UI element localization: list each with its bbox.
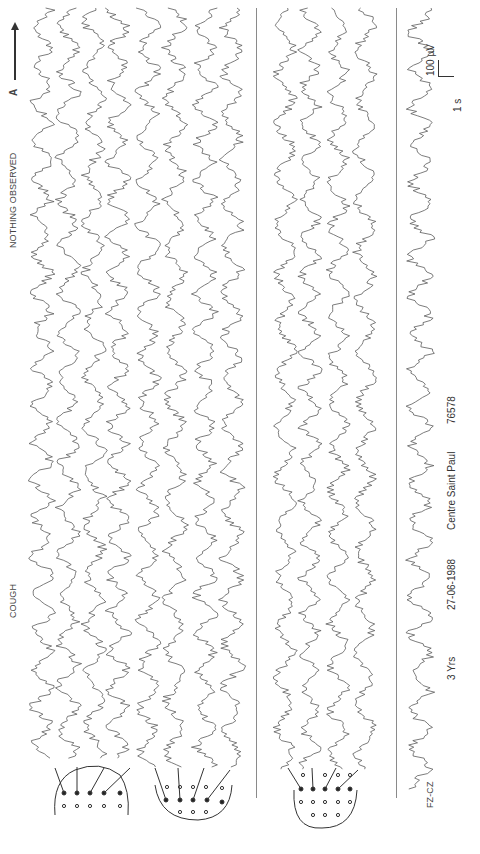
eeg-trace (191, 8, 218, 767)
annotation-cough: COUGH (8, 584, 18, 618)
eeg-trace (406, 8, 435, 789)
direction-arrow (14, 28, 16, 80)
eeg-trace (28, 8, 55, 758)
eeg-trace (273, 8, 297, 769)
arrow-head-icon (11, 22, 19, 30)
record-id: 76578 (446, 396, 457, 424)
eeg-figure-page: A COUGH NOTHING OBSERVED FZ-CZ 1 s 100 µ… (0, 0, 480, 854)
panel-separator (256, 8, 257, 798)
eeg-trace (105, 8, 132, 758)
eeg-traces (0, 0, 480, 854)
scale-amplitude-label: 100 µV (425, 44, 436, 76)
eeg-trace (135, 8, 162, 767)
scale-time-label: 1 s (452, 99, 463, 112)
panel-separator (396, 8, 397, 798)
arrow-label: A (8, 89, 19, 96)
annotation-nothing-observed: NOTHING OBSERVED (8, 153, 18, 248)
channel-label-fz-cz: FZ-CZ (425, 782, 435, 809)
eeg-trace (353, 8, 378, 769)
eeg-trace (55, 8, 82, 758)
eeg-trace (81, 8, 107, 758)
eeg-trace (298, 8, 322, 769)
eeg-trace (219, 8, 246, 767)
scale-bar (438, 60, 454, 94)
eeg-trace (162, 8, 189, 767)
patient-age: 3 Yrs (446, 657, 457, 680)
eeg-trace (326, 8, 350, 769)
center-name: Centre Saint Paul (446, 452, 457, 530)
record-date: 27-06-1988 (446, 559, 457, 610)
